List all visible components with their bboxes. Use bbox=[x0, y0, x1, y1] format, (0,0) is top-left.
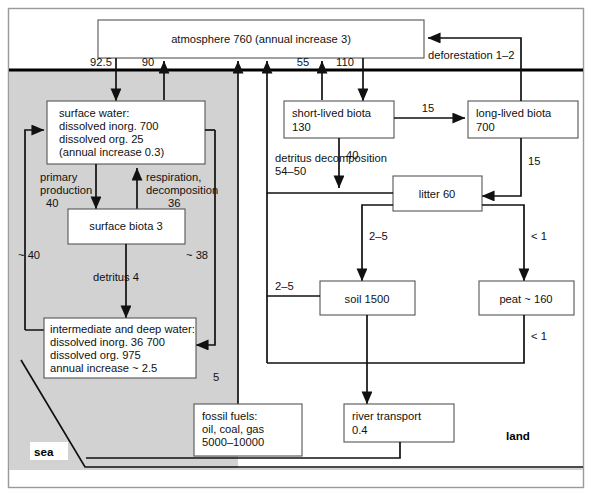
label-flux-short-to-long: 15 bbox=[422, 102, 434, 114]
label-upwelling: ~ 40 bbox=[18, 249, 40, 261]
label-deep-water-3: dissolved org. 975 bbox=[50, 349, 141, 361]
label-deep-water-2: dissolved inorg. 36 700 bbox=[50, 336, 165, 348]
label-respiration-1: respiration, bbox=[146, 171, 201, 183]
label-respiration-3: 36 bbox=[168, 197, 180, 209]
label-flux-55: 55 bbox=[297, 56, 309, 68]
label-deep-water-1: intermediate and deep water: bbox=[50, 323, 195, 335]
label-peat: peat ~ 160 bbox=[499, 293, 552, 305]
label-deforestation: deforestation 1–2 bbox=[428, 49, 514, 61]
label-litter: litter 60 bbox=[419, 188, 456, 200]
label-flux-92-5: 92.5 bbox=[90, 56, 112, 68]
label-river-transport-1: river transport bbox=[352, 410, 422, 422]
label-river-transport-2: 0.4 bbox=[352, 424, 368, 436]
label-soil-decomposition: 2–5 bbox=[275, 280, 294, 292]
label-primary-production-2: production bbox=[40, 184, 92, 196]
label-respiration-2: decomposition bbox=[146, 184, 218, 196]
label-detritus-decomp-1: detritus decomposition bbox=[275, 152, 387, 164]
label-flux-15-litter: 15 bbox=[528, 155, 540, 167]
label-flux-peat-out: < 1 bbox=[531, 330, 547, 342]
label-atmosphere: atmosphere 760 (annual increase 3) bbox=[171, 33, 351, 45]
label-short-lived-biota-1: short-lived biota bbox=[292, 107, 372, 119]
label-fossil-fuels-1: fossil fuels: bbox=[202, 410, 257, 422]
label-fossil-fuels-2: oil, coal, gas bbox=[202, 423, 265, 435]
label-long-lived-biota-1: long-lived biota bbox=[476, 107, 552, 119]
label-sea: sea bbox=[34, 445, 54, 458]
label-detritus: detritus 4 bbox=[93, 271, 139, 283]
label-surface-biota: surface biota 3 bbox=[89, 220, 162, 232]
label-surface-water-4: (annual increase 0.3) bbox=[59, 146, 164, 158]
label-flux-litter-to-peat: < 1 bbox=[531, 230, 547, 242]
label-soil: soil 1500 bbox=[345, 293, 390, 305]
label-long-lived-biota-2: 700 bbox=[476, 121, 495, 133]
label-surface-water-1: surface water: bbox=[59, 107, 129, 119]
label-land: land bbox=[506, 429, 530, 442]
label-detritus-decomp-2: 54–50 bbox=[275, 165, 306, 177]
label-flux-90: 90 bbox=[142, 56, 154, 68]
carbon-cycle-diagram: atmosphere 760 (annual increase 3) 92.5 … bbox=[0, 0, 592, 497]
label-downwelling: ~ 38 bbox=[186, 249, 208, 261]
label-primary-production-3: 40 bbox=[46, 197, 58, 209]
label-flux-110: 110 bbox=[336, 56, 354, 68]
label-flux-5: 5 bbox=[213, 371, 219, 383]
label-primary-production-1: primary bbox=[40, 171, 78, 183]
label-surface-water-3: dissolved org. 25 bbox=[59, 133, 144, 145]
label-flux-litter-to-soil: 2–5 bbox=[369, 230, 388, 242]
label-surface-water-2: dissolved inorg. 700 bbox=[59, 120, 159, 132]
label-deep-water-4: annual increase ~ 2.5 bbox=[50, 362, 157, 374]
label-short-lived-biota-2: 130 bbox=[292, 121, 311, 133]
label-fossil-fuels-3: 5000–10000 bbox=[202, 436, 264, 448]
